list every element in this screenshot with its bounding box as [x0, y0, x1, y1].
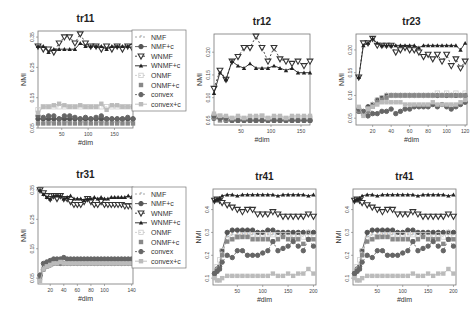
- square-marker: [46, 105, 50, 109]
- square-marker: [389, 93, 393, 97]
- square-marker: [225, 239, 229, 243]
- x-tick-label: 150: [424, 288, 433, 294]
- circle-marker: [380, 228, 384, 232]
- circle-marker: [296, 244, 300, 248]
- circle-marker: [57, 117, 61, 121]
- legend-item-WNMF: WNMF: [135, 53, 173, 60]
- square-marker: [276, 237, 280, 241]
- square-marker: [449, 102, 453, 106]
- x-tick-label: 150: [297, 128, 306, 134]
- square-marker: [417, 102, 421, 106]
- legend-label: WNMF: [151, 53, 173, 60]
- x-tick-label: 100: [399, 288, 408, 294]
- circle-marker: [230, 228, 234, 232]
- square-marker: [62, 121, 66, 125]
- circle-marker: [421, 246, 425, 250]
- circle-marker: [52, 114, 56, 118]
- square-marker: [380, 100, 384, 104]
- square-marker: [41, 121, 45, 125]
- square-marker: [73, 121, 77, 125]
- y-tick-label: 0.3: [204, 229, 210, 236]
- square-marker: [436, 237, 440, 241]
- circle-marker: [406, 249, 410, 253]
- circle-marker: [83, 115, 87, 119]
- square-marker: [366, 107, 370, 111]
- square-marker: [398, 100, 402, 104]
- square-marker: [357, 105, 361, 109]
- square-marker: [126, 105, 130, 109]
- square-marker: [360, 253, 364, 257]
- x-tick-label: 100: [84, 131, 93, 137]
- square-marker: [250, 274, 254, 278]
- y-tick-label: 0.35: [29, 185, 35, 195]
- circle-marker: [296, 118, 300, 122]
- x-axis-label: #dim: [404, 136, 419, 143]
- legend: *NMFNMF+cWNMFWNMF+cONMFONMF+cconvexconve…: [132, 30, 186, 111]
- circle-marker: [441, 249, 445, 253]
- x-tick-label: 200: [309, 288, 318, 294]
- legend-item-NMF+c: NMF+c: [135, 200, 174, 207]
- circle-marker: [301, 249, 305, 253]
- legend-label: WNMF+c: [151, 62, 181, 69]
- x-tick-label: 100: [259, 288, 268, 294]
- square-marker: [403, 102, 407, 106]
- square-marker: [236, 114, 240, 118]
- square-marker: [444, 93, 448, 97]
- square-marker: [394, 93, 398, 97]
- legend-label: NMF+c: [151, 200, 174, 207]
- square-marker: [302, 114, 306, 118]
- circle-marker: [370, 255, 374, 259]
- circle-marker: [62, 114, 66, 118]
- y-tick-label: 0.1: [344, 274, 350, 281]
- square-marker: [458, 93, 462, 97]
- square-marker: [411, 271, 415, 275]
- square-marker: [83, 121, 87, 125]
- y-tick-label: 0.10: [205, 93, 211, 103]
- circle-marker: [139, 201, 143, 205]
- legend-item-convex: convex: [135, 248, 174, 255]
- y-tick-label: 0.2: [204, 252, 210, 259]
- square-marker: [67, 105, 71, 109]
- square-marker: [89, 121, 93, 125]
- circle-marker: [449, 107, 453, 111]
- x-tick-label: 200: [449, 288, 458, 294]
- x-tick-label: 40: [388, 128, 394, 134]
- circle-marker: [276, 249, 280, 253]
- chart-panel-tr12: tr12501001500.050.100.150.20#dimNMI*****…: [196, 16, 313, 143]
- y-axis-label: NMI: [195, 231, 202, 244]
- square-marker: [278, 114, 282, 118]
- x-tick-label: 40: [61, 287, 67, 293]
- square-marker: [94, 121, 98, 125]
- circle-marker: [271, 228, 275, 232]
- square-marker: [139, 259, 143, 263]
- circle-marker: [266, 228, 270, 232]
- legend-label: NMF+c: [151, 43, 174, 50]
- legend-label: WNMF+c: [151, 219, 181, 226]
- circle-marker: [375, 228, 379, 232]
- circle-marker: [230, 255, 234, 259]
- square-marker: [370, 237, 374, 241]
- circle-marker: [370, 228, 374, 232]
- circle-marker: [365, 253, 369, 257]
- chart-panel-tr23: tr23204060801001200.050.100.150.20#dimNM…: [338, 16, 470, 143]
- circle-marker: [407, 107, 411, 111]
- x-tick-label: 150: [110, 131, 119, 137]
- y-tick-label: 0.05: [347, 113, 353, 123]
- circle-marker: [240, 249, 244, 253]
- x-tick-label: 80: [88, 287, 94, 293]
- circle-marker: [375, 249, 379, 253]
- square-marker: [131, 121, 135, 125]
- chart-title: tr41: [255, 171, 274, 182]
- chart-title: tr41: [395, 171, 414, 182]
- circle-marker: [281, 246, 285, 250]
- circle-marker: [139, 92, 143, 96]
- square-marker: [235, 274, 239, 278]
- circle-marker: [308, 118, 312, 122]
- circle-marker: [360, 260, 364, 264]
- circle-marker: [394, 111, 398, 115]
- square-marker: [120, 121, 124, 125]
- square-marker: [380, 274, 384, 278]
- square-marker: [426, 237, 430, 241]
- x-tick-label: 60: [75, 287, 81, 293]
- chart-title: tr11: [77, 13, 95, 24]
